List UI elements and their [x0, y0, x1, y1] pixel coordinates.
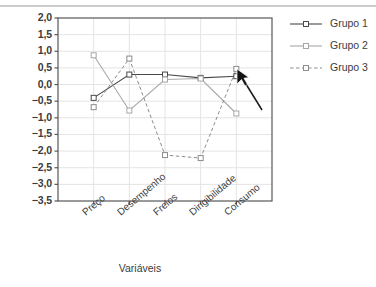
- legend-marker-3: [304, 66, 309, 71]
- y-axis-tick-label: −3,0: [8, 177, 52, 189]
- x-axis-title: Variáveis: [0, 262, 280, 274]
- data-point-marker: [91, 95, 96, 100]
- data-point-marker: [234, 111, 239, 116]
- legend-marker-1: [304, 22, 309, 27]
- data-point-marker: [127, 108, 132, 113]
- line-chart-canvas: [0, 0, 376, 287]
- y-axis-tick-label: 0,0: [8, 78, 52, 90]
- data-point-marker: [91, 53, 96, 58]
- data-point-marker: [163, 153, 168, 158]
- y-axis-tick-label: 0,5: [8, 61, 52, 73]
- legend-symbols: [290, 22, 322, 71]
- y-axis-tick-label: −2,5: [8, 161, 52, 173]
- legend-marker-2: [304, 44, 309, 49]
- legend-label-3: Grupo 3: [330, 61, 368, 73]
- data-point-marker: [91, 105, 96, 110]
- y-axis-tick-label: 2,0: [8, 11, 52, 23]
- legend-label-1: Grupo 1: [330, 17, 368, 29]
- data-point-marker: [198, 156, 203, 161]
- y-axis-tick-label: −0,5: [8, 94, 52, 106]
- mouse-cursor-arrow: [237, 69, 262, 110]
- y-axis-tick-label: −1,0: [8, 111, 52, 123]
- data-point-marker: [163, 72, 168, 77]
- data-point-marker: [127, 72, 132, 77]
- legend-label-2: Grupo 2: [330, 39, 368, 51]
- data-point-marker: [198, 76, 203, 81]
- y-axis-tick-label: 1,5: [8, 28, 52, 40]
- y-axis-tick-label: −2,0: [8, 144, 52, 156]
- y-axis-tick-label: −3,5: [8, 194, 52, 206]
- chart-figure: 2,01,51,00,50,0−0,5−1,0−1,5−2,0−2,5−3,0−…: [0, 0, 376, 287]
- y-axis-tick-label: −1,5: [8, 127, 52, 139]
- y-axis-tick-label: 1,0: [8, 44, 52, 56]
- data-point-marker: [163, 77, 168, 82]
- data-point-marker: [127, 56, 132, 61]
- plot-vertical-gridlines: [94, 18, 237, 201]
